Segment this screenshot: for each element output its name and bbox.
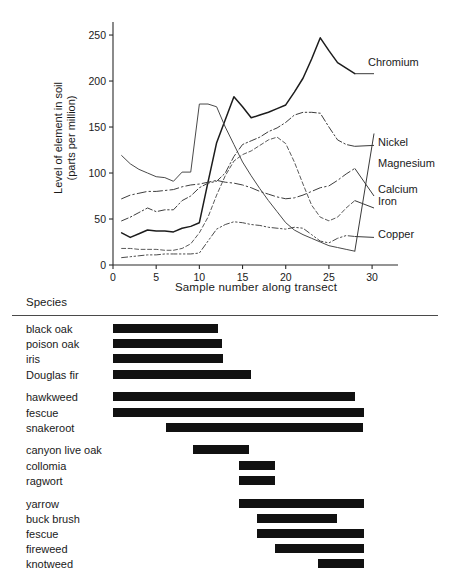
y-tick-label: 150 [88,121,106,133]
species-name: iris [26,352,40,366]
y-axis-title-line2: (parts per million) [65,48,78,228]
line-chart-panel: 050100150200250051015202530 Level of ele… [0,0,450,300]
species-range-bar [275,544,364,553]
species-range-bar [113,408,364,417]
y-tick-label: 100 [88,167,106,179]
series-label-copper: Copper [378,228,414,240]
series-label-calcium: Calcium [378,183,418,195]
species-name: buck brush [26,512,80,526]
species-range-bar [318,559,365,568]
species-row: yarrow [0,497,450,512]
series-line-copper [122,222,355,258]
species-chart-panel: Species black oakpoison oakirisDouglas f… [0,296,450,559]
species-row: hawkweed [0,390,450,405]
species-row: canyon live oak [0,443,450,458]
species-name: Douglas fir [26,368,79,382]
species-range-bar [239,499,364,508]
x-axis-title: Sample number along transect [113,281,399,293]
species-row: ragwort [0,474,450,489]
species-range-bar [239,476,275,485]
axes: 050100150200250051015202530 [88,22,398,283]
leader-line-iron [355,201,374,208]
y-tick-label: 250 [88,29,106,41]
species-range-bar [166,423,364,432]
species-row: collomia [0,459,450,474]
series-label-magnesium: Magnesium [378,157,435,169]
y-axis-title-line1: Level of element in soil [52,48,65,228]
species-range-bar [239,461,275,470]
species-name: canyon live oak [26,443,102,457]
species-name: black oak [26,322,72,336]
species-row: Douglas fir [0,368,450,383]
species-row: iris [0,352,450,367]
species-name: ragwort [26,474,63,488]
series-line-magnesium [122,112,355,221]
y-tick-label: 200 [88,75,106,87]
species-heading: Species [26,296,67,308]
series-line-chromium [122,38,355,238]
species-row: black oak [0,322,450,337]
species-range-bar [257,529,364,538]
leader-line-magnesium [355,145,374,146]
species-name: fireweed [26,542,68,556]
series-line-nickel [122,104,355,251]
species-row: poison oak [0,337,450,352]
species-range-bar [113,339,222,348]
species-name: hawkweed [26,390,78,404]
species-range-bar [113,324,218,333]
species-range-bar [257,514,337,523]
species-range-bar [113,392,355,401]
species-name: fescue [26,406,58,420]
species-row: fescue [0,406,450,421]
species-name: yarrow [26,497,59,511]
species-name: knotweed [26,557,73,571]
species-range-bar [113,370,251,379]
leader-line-copper [355,237,374,238]
species-divider [12,315,438,316]
species-range-bar [193,445,249,454]
species-name: snakeroot [26,421,74,435]
series-lines [122,38,355,258]
species-name: poison oak [26,337,79,351]
series-label-nickel: Nickel [378,136,408,148]
y-tick-label: 50 [94,213,106,225]
species-row: fescue [0,527,450,542]
species-row: fireweed [0,542,450,557]
species-row: buck brush [0,512,450,527]
species-row: snakeroot [0,421,450,436]
y-axis-title: Level of element in soil (parts per mill… [52,0,72,48]
y-tick-label: 0 [100,259,106,271]
species-name: fescue [26,527,58,541]
label-leader-lines [355,74,374,252]
species-range-bar [113,354,223,363]
species-row: knotweed [0,557,450,572]
series-line-calcium [122,168,355,198]
series-label-iron: Iron [378,195,397,207]
series-label-chromium: Chromium [368,56,419,68]
species-name: collomia [26,459,66,473]
